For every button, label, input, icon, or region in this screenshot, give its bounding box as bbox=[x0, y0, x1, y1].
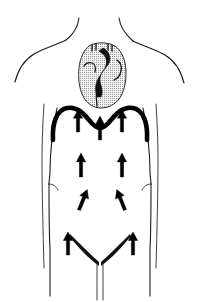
torso-left-lower bbox=[49, 184, 50, 296]
arrow-mid-left bbox=[76, 153, 85, 177]
heart-group bbox=[79, 43, 126, 108]
flow-arrows-group bbox=[63, 110, 137, 255]
interventricular-groove-line bbox=[96, 88, 97, 106]
shoulder-right-line bbox=[133, 41, 184, 83]
shoulder-left-line bbox=[15, 40, 66, 82]
inguinal-fold-right bbox=[101, 234, 131, 266]
waist-right-crease bbox=[142, 184, 151, 190]
torso-illustration bbox=[0, 0, 200, 302]
inguinal-fold-left bbox=[69, 234, 99, 266]
torso-right-lower bbox=[150, 184, 151, 296]
torso-diagram bbox=[0, 0, 200, 302]
waist-left-crease bbox=[49, 184, 58, 190]
arrow-lower-left bbox=[75, 188, 92, 212]
arrow-mid-right bbox=[117, 153, 126, 177]
arm-right-inner-line bbox=[156, 104, 158, 268]
neck-right-line bbox=[119, 18, 133, 41]
arm-left-inner-line bbox=[42, 104, 44, 268]
arrow-lower-right bbox=[112, 188, 129, 212]
neck-left-line bbox=[66, 18, 79, 40]
